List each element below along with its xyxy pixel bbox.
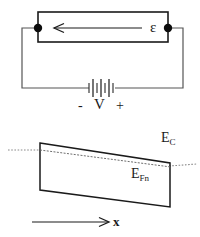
conduction-band-label: EC: [161, 131, 176, 145]
figure-svg: [0, 0, 200, 237]
emf-label: ε: [150, 20, 156, 35]
battery-symbol: [89, 79, 113, 97]
battery-plus-label: +: [116, 99, 124, 113]
efn-subscript: Fn: [140, 173, 150, 183]
ec-right-dotted-line: [169, 164, 197, 166]
energy-band-polygon: [40, 143, 170, 207]
x-axis-label: x: [113, 215, 120, 228]
battery-voltage-label: V: [94, 97, 105, 112]
ec-base: E: [161, 130, 170, 145]
outer-wire-left: [22, 28, 89, 88]
quasi-fermi-level-label: EFn: [131, 167, 149, 181]
circuit-group: [22, 12, 183, 97]
battery-minus-label: -: [78, 99, 83, 113]
left-contact-node: [34, 24, 42, 32]
right-contact-node: [164, 24, 172, 32]
outer-wire-right: [115, 28, 183, 88]
ec-subscript: C: [170, 137, 176, 147]
band-diagram-group: [8, 143, 197, 227]
figure-container: ε - V + EC EFn x: [0, 0, 200, 237]
efn-base: E: [131, 166, 140, 181]
